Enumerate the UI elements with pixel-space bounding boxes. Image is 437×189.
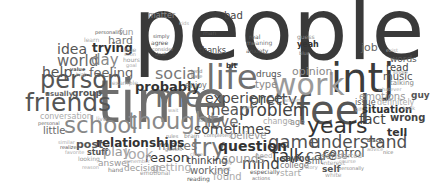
cloud-word: advice [367, 147, 383, 152]
cloud-word: matter [148, 12, 175, 20]
cloud-word: anxiety [246, 48, 268, 54]
cloud-word: read [386, 63, 409, 73]
cloud-word: random [282, 98, 301, 103]
cloud-word: goal [126, 63, 137, 68]
cloud-word: meaning [246, 40, 272, 46]
cloud-word: usually [45, 91, 73, 98]
cloud-word: games [165, 147, 182, 152]
cloud-word: bit [226, 63, 237, 70]
cloud-word: question [218, 139, 287, 153]
cloud-word: blue [299, 51, 310, 56]
cloud-word: brain [184, 133, 199, 139]
cloud-word: story [305, 165, 318, 170]
cloud-word: tell [387, 127, 407, 138]
cloud-word: kids [179, 21, 189, 26]
cloud-word: job [361, 42, 378, 53]
cloud-word: type [255, 80, 277, 90]
word-cloud: peopletimeintjfeellifeworkpersonfriendss… [0, 0, 437, 189]
cloud-word: opinion [292, 66, 333, 77]
cloud-word: close [190, 152, 203, 157]
cloud-word: song [198, 118, 210, 123]
cloud-word: whatever [378, 87, 401, 92]
cloud-word: hate [191, 74, 202, 79]
cloud-word: reading [187, 176, 210, 182]
cloud-word: personally [338, 166, 364, 171]
cloud-word: start [280, 169, 301, 178]
cloud-word: high [76, 72, 87, 77]
cloud-word: help [42, 65, 72, 79]
cloud-word: enjoy [185, 82, 207, 90]
cloud-word: personality [95, 30, 123, 35]
cloud-word: wait [168, 108, 179, 113]
cloud-word: soon [124, 52, 136, 57]
cloud-word: hand [108, 167, 123, 173]
cloud-word: white [325, 172, 341, 178]
cloud-word: little [43, 126, 65, 136]
cloud-word: need [255, 153, 273, 160]
cloud-word: past [243, 105, 254, 110]
cloud-word: example [112, 80, 138, 86]
cloud-word: words [390, 55, 417, 64]
cloud-word: thanks [199, 47, 226, 55]
cloud-word: black [367, 138, 382, 143]
cloud-word: found [213, 172, 242, 182]
cloud-word: drugs [256, 70, 282, 79]
cloud-word: course [339, 159, 356, 164]
cloud-word: getting [152, 162, 191, 173]
cloud-word: yeah [297, 41, 319, 49]
cloud-word: actions [252, 176, 270, 181]
cloud-word: rules [166, 134, 178, 139]
cloud-word: believe [230, 131, 266, 141]
cloud-word: guy [411, 91, 430, 100]
cloud-word: age [290, 119, 305, 127]
cloud-word: man [203, 30, 216, 36]
cloud-word: group [72, 89, 102, 98]
cloud-word: exist [386, 48, 398, 53]
cloud-word: bad [224, 11, 243, 21]
cloud-word: looking [78, 156, 100, 162]
cloud-word: gift [355, 107, 363, 112]
cloud-word: learn [84, 37, 99, 43]
cloud-word: remember [124, 159, 150, 164]
cloud-word: change [263, 118, 292, 126]
cloud-word: emotions [359, 92, 405, 102]
cloud-word: deal [155, 52, 166, 57]
cloud-word: reason [82, 165, 99, 170]
cloud-word: completely [204, 133, 232, 138]
cloud-word: nice [383, 150, 393, 155]
cloud-word: live [96, 116, 107, 122]
cloud-word: sort [219, 166, 231, 172]
